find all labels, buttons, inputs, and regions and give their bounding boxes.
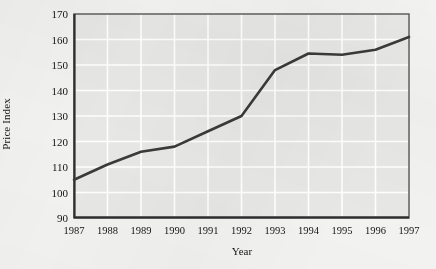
x-axis-tick-labels: 1987198819891990199119921993199419951996… [0,225,436,239]
chart-figure: 90100110120130140150160170 1987198819891… [0,0,436,269]
y-tick-label: 100 [20,188,68,198]
y-tick-label: 140 [20,86,68,96]
x-tick-label: 1997 [389,225,429,236]
y-axis-title: Price Index [0,22,16,226]
y-tick-label: 150 [20,60,68,70]
x-axis-title: Year [74,245,410,257]
y-tick-label: 120 [20,137,68,147]
y-tick-label: 90 [20,213,68,223]
y-tick-label: 160 [20,35,68,45]
y-tick-label: 170 [20,9,68,19]
y-tick-label: 130 [20,111,68,121]
y-tick-label: 110 [20,162,68,172]
